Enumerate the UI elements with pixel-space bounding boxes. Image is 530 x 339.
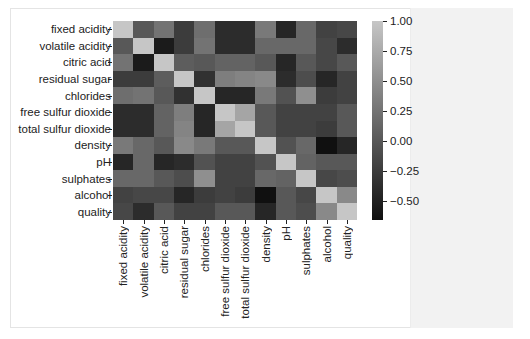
heatmap-cell	[296, 187, 316, 204]
heatmap-cell	[235, 187, 255, 204]
x-tick	[266, 220, 267, 224]
heatmap-cell	[154, 154, 174, 171]
heatmap-cell	[255, 121, 275, 138]
heatmap-cell	[113, 104, 133, 121]
heatmap-cell	[194, 21, 214, 38]
x-tick-label: alcohol	[320, 226, 334, 262]
heatmap-cell	[194, 203, 214, 220]
heatmap-cell	[316, 104, 336, 121]
heatmap-cell	[174, 187, 194, 204]
heatmap-cell	[255, 21, 275, 38]
heatmap-cell	[215, 154, 235, 171]
heatmap-cell	[174, 38, 194, 55]
x-tick-label: chlorides	[198, 226, 212, 272]
heatmap-cell	[337, 170, 357, 187]
colorbar-tick	[383, 171, 387, 172]
heatmap-cell	[215, 104, 235, 121]
heatmap-cell	[337, 87, 357, 104]
heatmap-cell	[337, 104, 357, 121]
colorbar-tick-label: −0.50	[390, 194, 419, 208]
heatmap-cell	[174, 154, 194, 171]
heatmap-cell	[296, 21, 316, 38]
heatmap-cell	[316, 121, 336, 138]
heatmap-cell	[133, 38, 153, 55]
x-tick	[184, 220, 185, 224]
heatmap-cell	[276, 71, 296, 88]
y-tick-label: fixed acidity	[51, 22, 111, 36]
heatmap-cell	[133, 71, 153, 88]
heatmap-cell	[133, 121, 153, 138]
heatmap-cell	[174, 71, 194, 88]
heatmap-cell	[215, 137, 235, 154]
heatmap-cell	[154, 71, 174, 88]
heatmap-cell	[276, 54, 296, 71]
heatmap-cell	[133, 54, 153, 71]
heatmap-cell	[337, 54, 357, 71]
colorbar-tick	[383, 141, 387, 142]
heatmap-cell	[255, 87, 275, 104]
heatmap-cell	[154, 38, 174, 55]
heatmap-cell	[316, 21, 336, 38]
heatmap-cell	[194, 38, 214, 55]
heatmap-cell	[215, 71, 235, 88]
y-tick-label: density	[75, 138, 111, 152]
x-tick-label: citric acid	[157, 226, 171, 274]
heatmap-cell	[235, 137, 255, 154]
heatmap-cell	[276, 38, 296, 55]
colorbar-tick-label: 1.00	[390, 14, 412, 28]
y-tick-label: free sulfur dioxide	[20, 105, 111, 119]
x-tick	[347, 220, 348, 224]
colorbar-tick-label: 0.50	[390, 74, 412, 88]
heatmap-cell	[194, 187, 214, 204]
heatmap-cell	[316, 54, 336, 71]
heatmap-cell	[255, 203, 275, 220]
heatmap-cell	[215, 121, 235, 138]
colorbar-tick	[383, 111, 387, 112]
heatmap-cell	[215, 187, 235, 204]
heatmap-cell	[276, 87, 296, 104]
x-tick	[225, 220, 226, 224]
y-tick-label: total sulfur dioxide	[18, 122, 111, 136]
heatmap-cell	[316, 187, 336, 204]
heatmap-cell	[337, 71, 357, 88]
heatmap-cell	[154, 187, 174, 204]
heatmap-cell	[154, 104, 174, 121]
heatmap-cell	[296, 121, 316, 138]
heatmap-cell	[296, 154, 316, 171]
heatmap-cell	[194, 137, 214, 154]
y-tick-label: pH	[96, 155, 111, 169]
heatmap-cell	[255, 54, 275, 71]
heatmap-cell	[316, 71, 336, 88]
heatmap-cell	[255, 170, 275, 187]
output-scroll-area[interactable]	[410, 8, 513, 328]
heatmap-cell	[316, 87, 336, 104]
y-tick-label: chlorides	[65, 89, 111, 103]
heatmap-cell	[133, 21, 153, 38]
heatmap-cell	[337, 187, 357, 204]
heatmap-cell	[235, 54, 255, 71]
heatmap-cell	[194, 87, 214, 104]
heatmap-cell	[316, 38, 336, 55]
heatmap-cell	[215, 203, 235, 220]
x-tick	[205, 220, 206, 224]
heatmap-cell	[154, 137, 174, 154]
heatmap-cell	[215, 87, 235, 104]
heatmap-cell	[113, 54, 133, 71]
heatmap-cell	[113, 87, 133, 104]
x-tick	[245, 220, 246, 224]
x-tick-label: volatile acidity	[137, 226, 151, 298]
heatmap-cell	[194, 104, 214, 121]
heatmap-cell	[235, 104, 255, 121]
x-tick-label: sulphates	[299, 226, 313, 275]
heatmap-cell	[337, 38, 357, 55]
heatmap-cell	[235, 21, 255, 38]
heatmap-cell	[154, 203, 174, 220]
heatmap-cell	[235, 87, 255, 104]
x-tick-label: quality	[340, 226, 354, 259]
heatmap-cell	[276, 187, 296, 204]
heatmap-cell	[235, 121, 255, 138]
heatmap-cell	[174, 54, 194, 71]
heatmap-cell	[296, 104, 316, 121]
heatmap-cell	[174, 137, 194, 154]
heatmap-cell	[255, 71, 275, 88]
